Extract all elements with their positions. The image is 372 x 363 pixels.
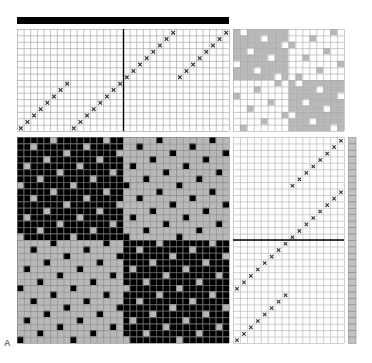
drawdown-cell	[150, 292, 157, 298]
tieup-grid	[233, 29, 345, 132]
drawdown-cell	[136, 156, 143, 162]
drawdown-cell	[17, 137, 24, 143]
drawdown-cell	[143, 337, 150, 343]
drawdown-cell	[130, 311, 137, 317]
drawdown-cell	[30, 221, 37, 227]
drawdown-cell	[143, 324, 150, 330]
drawdown-cell	[143, 311, 150, 317]
drawdown-cell	[130, 163, 137, 169]
tieup-cell	[233, 61, 240, 67]
drawdown-cell	[63, 240, 70, 246]
drawdown-cell	[103, 272, 110, 278]
drawdown-cell	[216, 292, 223, 298]
drawdown-cell	[222, 266, 229, 272]
drawdown-cell	[97, 234, 104, 240]
drawdown-cell	[169, 240, 176, 246]
tieup-cell	[330, 42, 337, 48]
tieup-cell	[337, 29, 344, 35]
tieup-cell	[282, 67, 289, 73]
drawdown-cell	[196, 234, 203, 240]
tieup-cell	[268, 29, 275, 35]
top-bar	[17, 17, 229, 24]
drawdown-cell	[123, 298, 130, 304]
drawdown-cell	[97, 214, 104, 220]
tieup-cell	[302, 42, 309, 48]
drawdown-cell	[130, 259, 137, 265]
drawdown-cell	[110, 143, 117, 149]
drawdown-cell	[116, 317, 123, 323]
drawdown-cell	[17, 150, 24, 156]
drawdown-cell	[150, 189, 157, 195]
drawdown-cell	[176, 259, 183, 265]
drawdown-cell	[222, 259, 229, 265]
drawdown-cell	[130, 189, 137, 195]
tieup-cell	[275, 112, 282, 118]
drawdown-cell	[143, 234, 150, 240]
drawdown-cell	[143, 195, 150, 201]
tieup-cell	[309, 86, 316, 92]
drawdown-cell	[169, 143, 176, 149]
strip-cell	[349, 221, 357, 227]
tieup-cell	[261, 106, 268, 112]
drawdown-cell	[156, 246, 163, 252]
drawdown-cell	[90, 143, 97, 149]
strip-cell	[349, 331, 357, 337]
drawdown-cell	[97, 221, 104, 227]
tieup-cell	[254, 118, 261, 124]
drawdown-cell	[222, 169, 229, 175]
tieup-cell	[275, 61, 282, 67]
drawdown-cell	[189, 311, 196, 317]
drawdown-cell	[189, 234, 196, 240]
drawdown-cell	[176, 292, 183, 298]
drawdown-cell	[30, 201, 37, 207]
drawdown-cell	[176, 169, 183, 175]
drawdown-cell	[44, 330, 51, 336]
drawdown-cell	[63, 169, 70, 175]
tieup-cell	[282, 29, 289, 35]
drawdown-cell	[103, 311, 110, 317]
tieup-cell	[295, 48, 302, 54]
drawdown-cell	[30, 285, 37, 291]
drawdown-cell	[150, 240, 157, 246]
drawdown-cell	[196, 208, 203, 214]
drawdown-cell	[24, 208, 31, 214]
drawdown-cell	[143, 285, 150, 291]
drawdown-cell	[189, 208, 196, 214]
tieup-cell	[309, 74, 316, 80]
drawdown-cell	[97, 195, 104, 201]
drawdown-cell	[57, 240, 64, 246]
tieup-cell	[316, 74, 323, 80]
tieup-cell	[337, 74, 344, 80]
drawdown-cell	[37, 208, 44, 214]
drawdown-cell	[156, 298, 163, 304]
tieup-cell	[330, 86, 337, 92]
drawdown-cell	[37, 195, 44, 201]
drawdown-cell	[130, 337, 137, 343]
tieup-cell	[295, 42, 302, 48]
drawdown-cell	[183, 324, 190, 330]
drawdown-cell	[143, 279, 150, 285]
drawdown-cell	[97, 156, 104, 162]
drawdown-cell	[37, 311, 44, 317]
drawdown-cell	[136, 214, 143, 220]
drawdown-cell	[63, 163, 70, 169]
drawdown-cell	[130, 201, 137, 207]
tieup-cell	[323, 99, 330, 105]
drawdown-cell	[203, 330, 210, 336]
drawdown-cell	[136, 169, 143, 175]
drawdown-cell	[183, 259, 190, 265]
drawdown-cell	[176, 234, 183, 240]
drawdown-cell	[83, 272, 90, 278]
tieup-cell	[309, 118, 316, 124]
drawdown-cell	[196, 227, 203, 233]
drawdown-cell	[44, 221, 51, 227]
drawdown-cell	[222, 176, 229, 182]
drawdown-cell	[189, 292, 196, 298]
drawdown-cell	[30, 317, 37, 323]
drawdown-cell	[189, 201, 196, 207]
tieup-cell	[261, 80, 268, 86]
drawdown-cell	[83, 150, 90, 156]
drawdown-cell	[176, 150, 183, 156]
drawdown-cell	[37, 279, 44, 285]
drawdown-cell	[196, 253, 203, 259]
